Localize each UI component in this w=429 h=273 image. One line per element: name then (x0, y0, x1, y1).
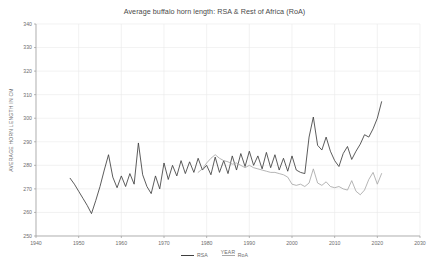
x-tick-label: 1990 (244, 240, 256, 246)
y-tick-label: 280 (23, 162, 32, 168)
legend-label-rsa: RSA (197, 252, 208, 258)
chart-figure: Average buffalo horn length: RSA & Rest … (0, 0, 429, 273)
legend-entry-rsa[interactable]: RSA (181, 252, 208, 258)
y-tick-label: 320 (23, 68, 32, 74)
legend-swatch-roa (222, 255, 235, 256)
gridlines-group (36, 24, 420, 236)
x-tick-label: 2000 (286, 240, 298, 246)
legend-swatch-rsa (181, 255, 194, 256)
x-tick-label: 2030 (414, 240, 426, 246)
x-tick-label: 1940 (30, 240, 42, 246)
y-tick-label: 310 (23, 92, 32, 98)
legend-label-roa: RoA (238, 252, 248, 258)
y-tick-label: 290 (23, 139, 32, 145)
y-tick-label: 340 (23, 21, 32, 27)
x-tick-label: 1980 (201, 240, 213, 246)
x-tick-label: 1960 (116, 240, 128, 246)
x-tick-label: 1970 (158, 240, 170, 246)
axes-group (34, 24, 420, 238)
y-tick-label: 270 (23, 186, 32, 192)
x-tick-label: 2020 (372, 240, 384, 246)
legend-entry-roa[interactable]: RoA (222, 252, 248, 258)
axis-titles-group: YEARAVERAGE HORN LENGTH IN CM (8, 88, 235, 255)
x-tick-label: 1950 (73, 240, 85, 246)
y-tick-label: 330 (23, 44, 32, 50)
chart-legend: RSA RoA (0, 252, 429, 258)
y-tick-label: 250 (23, 233, 32, 239)
chart-plot-area: 2502602702802903003103203303401940195019… (0, 0, 429, 273)
y-tick-label: 300 (23, 115, 32, 121)
y-axis-title: AVERAGE HORN LENGTH IN CM (8, 88, 14, 171)
x-tick-label: 2010 (329, 240, 341, 246)
y-tick-label: 260 (23, 209, 32, 215)
